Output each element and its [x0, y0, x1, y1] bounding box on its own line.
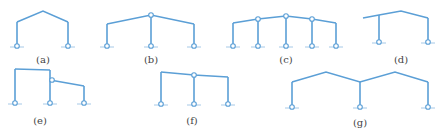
frame-panel-g: (g) — [285, 72, 435, 128]
pinned-support-icon — [149, 44, 154, 49]
panel-label-d: (d) — [394, 54, 408, 65]
pinned-support-icon — [192, 44, 197, 49]
pinned-support-icon — [358, 105, 363, 110]
pinned-support-icon — [334, 44, 339, 49]
panel-label-f: (f) — [186, 115, 198, 126]
pinned-support-icon — [82, 101, 87, 106]
pinned-support-icon — [66, 44, 71, 49]
pinned-support-icon — [284, 44, 289, 49]
pinned-support-icon — [290, 105, 295, 110]
hinge-joint-icon — [256, 17, 261, 22]
hinge-joint-icon — [50, 78, 55, 83]
hinge-joint-icon — [192, 73, 197, 78]
pinned-support-icon — [105, 44, 110, 49]
rafter-beam — [17, 11, 68, 22]
frame-panel-d: (d) — [363, 11, 435, 65]
frame-panel-a: (a) — [10, 11, 75, 65]
panel-label-g: (g) — [353, 117, 367, 128]
panel-label-e: (e) — [33, 115, 47, 126]
frame-panel-e: (e) — [8, 69, 91, 126]
panel-label-c: (c) — [279, 54, 293, 65]
pinned-support-icon — [310, 44, 315, 49]
panel-label-a: (a) — [36, 54, 50, 65]
frame-panel-f: (f) — [154, 72, 235, 126]
pinned-support-icon — [426, 40, 431, 45]
pinned-support-icon — [159, 102, 164, 107]
pinned-support-icon — [226, 102, 231, 107]
pinned-support-icon — [48, 101, 53, 106]
frame-panel-c: (c) — [226, 14, 343, 65]
portal-frame-diagram: (a)(b)(c)(d)(e)(f)(g) — [0, 0, 439, 130]
frame-panel-b: (b) — [100, 13, 201, 65]
hinge-joint-icon — [284, 14, 289, 19]
hinge-joint-icon — [310, 17, 315, 22]
pinned-support-icon — [15, 44, 20, 49]
pinned-support-icon — [426, 105, 431, 110]
lower-rafter-beam — [50, 80, 84, 86]
rafter-beam — [15, 69, 50, 70]
pinned-support-icon — [256, 44, 261, 49]
pinned-support-icon — [13, 101, 18, 106]
rafter-beam — [292, 72, 428, 82]
pinned-support-icon — [377, 40, 382, 45]
rafter-beam — [363, 11, 428, 18]
panel-label-b: (b) — [144, 54, 158, 65]
hinge-joint-icon — [149, 13, 154, 18]
pinned-support-icon — [192, 102, 197, 107]
pinned-support-icon — [231, 44, 236, 49]
